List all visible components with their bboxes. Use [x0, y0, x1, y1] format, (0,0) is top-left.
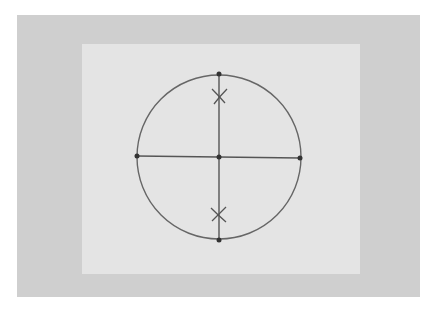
point-left: [135, 154, 140, 159]
point-right: [298, 156, 303, 161]
geometry-diagram: [0, 0, 444, 317]
point-bottom: [217, 238, 222, 243]
point-center: [217, 155, 222, 160]
point-top: [217, 72, 222, 77]
